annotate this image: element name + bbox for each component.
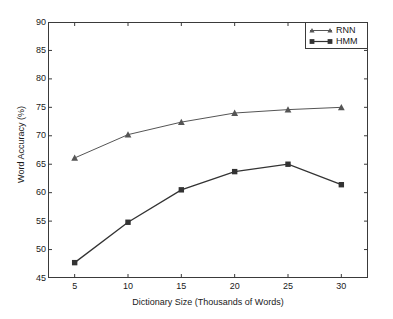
x-axis-title: Dictionary Size (Thousands of Words) bbox=[48, 298, 368, 307]
y-tick-label: 90 bbox=[16, 18, 46, 27]
legend-item-hmm: HMM bbox=[308, 36, 365, 47]
x-tick-label: 20 bbox=[220, 282, 250, 291]
x-tick-label: 30 bbox=[326, 282, 356, 291]
legend-label-rnn: RNN bbox=[336, 26, 356, 35]
y-tick-label: 50 bbox=[16, 245, 46, 254]
x-tick-label: 10 bbox=[113, 282, 143, 291]
legend-sample-hmm bbox=[308, 36, 334, 47]
y-axis-title: Word Accuracy (%) bbox=[17, 75, 26, 215]
legend-label-hmm: HMM bbox=[336, 37, 358, 46]
legend-item-rnn: RNN bbox=[308, 25, 365, 36]
legend-sample-rnn bbox=[308, 25, 334, 36]
y-tick-label: 55 bbox=[16, 217, 46, 226]
x-tick-label: 15 bbox=[166, 282, 196, 291]
y-tick-label: 45 bbox=[16, 274, 46, 283]
chart-legend: RNN HMM bbox=[305, 22, 368, 49]
chart-plot-svg bbox=[48, 22, 368, 278]
chart-figure: 45505560657075808590 51015202530 Word Ac… bbox=[0, 0, 393, 319]
y-tick-label: 85 bbox=[16, 46, 46, 55]
x-tick-label: 25 bbox=[273, 282, 303, 291]
x-tick-label: 5 bbox=[60, 282, 90, 291]
